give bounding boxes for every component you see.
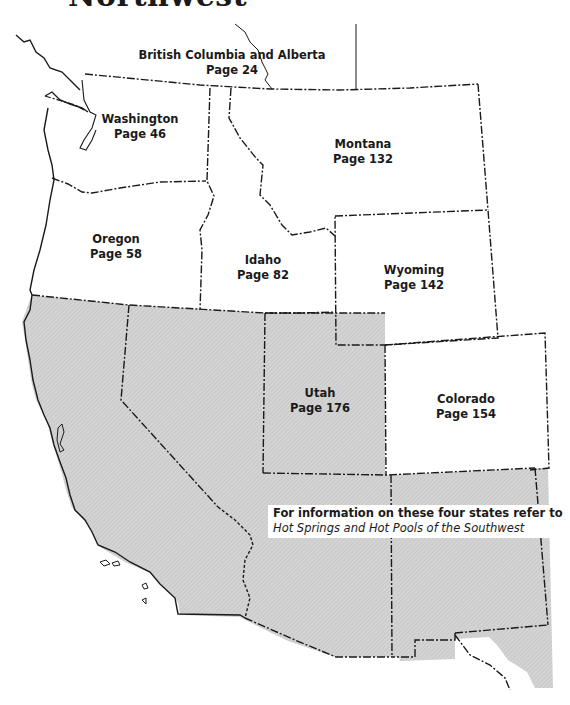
region-map [0,0,570,705]
region-name: Idaho [237,253,289,268]
region-page: Page 176 [290,401,350,416]
region-name: Washington [101,112,178,127]
map-title: Northwest [68,0,247,13]
region-name: British Columbia and Alberta [138,48,325,63]
strait-border [45,96,84,110]
shaded-southwest-states [22,295,553,688]
region-page: Page 142 [384,278,444,293]
region-label-washington[interactable]: Washington Page 46 [101,112,178,142]
region-page: Page 82 [237,268,289,283]
region-name: Oregon [90,232,142,247]
region-page: Page 132 [333,152,393,167]
region-page: Page 46 [101,127,178,142]
region-name: Utah [290,386,350,401]
note-line-1: For information on these four states ref… [273,506,563,521]
region-name: Wyoming [384,263,444,278]
region-label-bc-alberta[interactable]: British Columbia and Alberta Page 24 [138,48,325,78]
southwest-reference-note: For information on these four states ref… [268,505,568,538]
region-label-utah[interactable]: Utah Page 176 [290,386,350,416]
region-label-wyoming[interactable]: Wyoming Page 142 [384,263,444,293]
region-name: Colorado [436,392,496,407]
note-line-2: Hot Springs and Hot Pools of the Southwe… [273,521,563,536]
region-label-montana[interactable]: Montana Page 132 [333,137,393,167]
region-name: Montana [333,137,393,152]
region-label-colorado[interactable]: Colorado Page 154 [436,392,496,422]
region-page: Page 154 [436,407,496,422]
region-label-idaho[interactable]: Idaho Page 82 [237,253,289,283]
region-page: Page 24 [138,63,325,78]
region-label-oregon[interactable]: Oregon Page 58 [90,232,142,262]
puget-sound [80,80,96,150]
region-page: Page 58 [90,247,142,262]
